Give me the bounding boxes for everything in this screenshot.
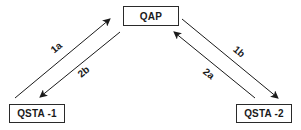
node-qap: QAP bbox=[123, 6, 179, 26]
edge-2a-arrow bbox=[174, 32, 255, 98]
node-qsta-1: QSTA -1 bbox=[9, 104, 65, 123]
node-qsta-1-label: QSTA -1 bbox=[17, 108, 57, 119]
message-flow-diagram: QAP QSTA -1 QSTA -2 1a 2b 1b 2a bbox=[0, 0, 301, 130]
edge-2b-arrow bbox=[40, 32, 120, 97]
edge-1b-arrow bbox=[182, 19, 278, 98]
node-qsta-2-label: QSTA -2 bbox=[244, 108, 284, 119]
node-qsta-2: QSTA -2 bbox=[236, 104, 292, 123]
edge-1a-arrow bbox=[15, 19, 110, 98]
node-qap-label: QAP bbox=[140, 11, 162, 22]
